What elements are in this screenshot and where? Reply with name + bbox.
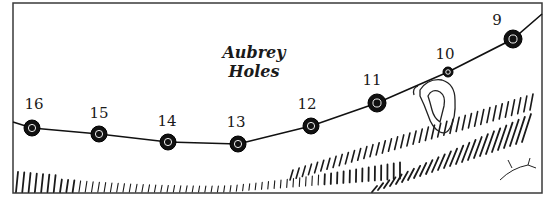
hole-label: 15 (89, 104, 108, 122)
aubrey-hole-16: 16 (24, 95, 44, 136)
aubrey-hole-15: 15 (89, 104, 108, 142)
aubrey-hole-13: 13 (226, 113, 246, 152)
hole-marker-icon (504, 30, 522, 48)
crack-lines (500, 158, 536, 180)
hole-marker-icon (443, 67, 453, 77)
aubrey-hole-10: 10 (435, 45, 454, 77)
diagram-title-line-2: Holes (227, 62, 279, 81)
hole-label: 11 (362, 71, 381, 89)
hole-marker-icon (91, 126, 107, 142)
hole-label: 16 (24, 95, 43, 113)
diagram-title-line-1: Aubrey (220, 43, 287, 62)
hole-label: 9 (492, 11, 502, 29)
aubrey-holes-diagram: 161514131211109 Aubrey Holes (0, 0, 553, 219)
hole-label: 14 (157, 112, 176, 130)
hole-label: 13 (226, 113, 245, 131)
hole-marker-icon (160, 134, 176, 150)
hole-label: 10 (435, 45, 454, 63)
aubrey-hole-11: 11 (362, 71, 386, 112)
hole-label: 12 (297, 95, 316, 113)
hole-marker-icon (368, 94, 386, 112)
aubrey-hole-14: 14 (157, 112, 176, 150)
hole-marker-icon (24, 120, 40, 136)
hole-marker-icon (230, 136, 246, 152)
aubrey-hole-9: 9 (492, 11, 522, 48)
hole-marker-icon (303, 118, 319, 134)
diagram-frame (13, 3, 542, 193)
ditch-hatching-lower (16, 163, 400, 193)
